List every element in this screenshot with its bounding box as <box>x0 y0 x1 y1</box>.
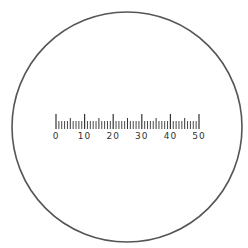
scale-label: 30 <box>135 131 148 141</box>
scale-label: 50 <box>192 131 205 141</box>
reticle-svg: 01020304050 <box>0 0 248 248</box>
scale-label: 20 <box>106 131 119 141</box>
scale-label: 40 <box>164 131 177 141</box>
reticle-view: 01020304050 <box>0 0 248 248</box>
scale-label: 10 <box>78 131 91 141</box>
scale-label: 0 <box>53 131 60 141</box>
